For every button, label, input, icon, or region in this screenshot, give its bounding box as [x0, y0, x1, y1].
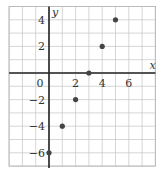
- tick-labels: 024642−2−4−6: [29, 14, 133, 160]
- axes: [9, 7, 155, 169]
- x-tick-label: 6: [125, 77, 132, 90]
- y-tick-label: −6: [29, 147, 45, 160]
- x-tick-label: 2: [72, 77, 79, 90]
- x-axis-label: x: [149, 59, 156, 72]
- y-tick-label: −4: [29, 120, 45, 133]
- data-point: [86, 70, 91, 75]
- data-point: [113, 17, 118, 22]
- scatter-chart: 024642−2−4−6 x y: [0, 0, 161, 174]
- data-point: [73, 97, 78, 102]
- y-axis-label: y: [51, 6, 59, 19]
- grid-lines: [9, 7, 155, 167]
- y-tick-label: 4: [38, 14, 45, 27]
- data-point: [46, 150, 51, 155]
- y-tick-label: 2: [38, 40, 45, 53]
- x-tick-label: 4: [99, 77, 106, 90]
- x-tick-label: 0: [37, 77, 44, 90]
- y-tick-label: −2: [29, 94, 45, 107]
- data-point: [100, 44, 105, 49]
- data-point: [60, 124, 65, 129]
